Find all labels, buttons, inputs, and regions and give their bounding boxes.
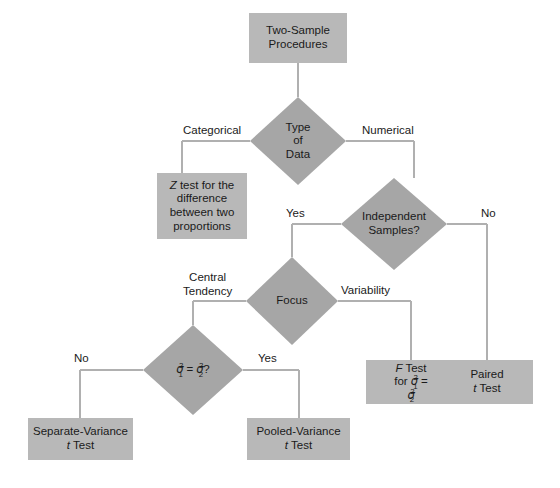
node-label: Two-Sample Procedures [266, 24, 330, 51]
node-separate-variance-t-test[interactable]: Separate-Variance t Test [28, 418, 133, 460]
edge-label-independent-yes: Yes [286, 207, 305, 221]
node-label: Focus [246, 257, 338, 345]
node-label: Separate-Variance t Test [33, 425, 128, 452]
node-z-test[interactable]: Z test for the difference between two pr… [157, 173, 247, 239]
node-type-of-data[interactable]: Type of Data [250, 97, 346, 185]
edge-label-sigma-no: No [74, 352, 89, 366]
node-independent-samples[interactable]: Independent Samples? [341, 178, 447, 270]
node-focus[interactable]: Focus [246, 257, 338, 345]
flowchart-canvas: Two-Sample Procedures Type of Data Categ… [0, 0, 560, 488]
node-label: F Test for σ12 = σ22 [389, 362, 433, 403]
node-label: Pooled-Variance t Test [256, 425, 340, 452]
edge-label-independent-no: No [481, 207, 496, 221]
connector-lines [0, 0, 560, 488]
edge-label-sigma-yes: Yes [258, 352, 277, 366]
node-label: Paired t Test [470, 368, 503, 395]
node-pooled-variance-t-test[interactable]: Pooled-Variance t Test [247, 418, 350, 460]
node-two-sample-procedures[interactable]: Two-Sample Procedures [249, 13, 347, 63]
node-label: σ12 = σ22? [143, 325, 243, 415]
node-label: Type of Data [250, 97, 346, 185]
node-label: Independent Samples? [341, 178, 447, 270]
edge-label-central-tendency: Central Tendency [183, 271, 232, 298]
edge-label-variability: Variability [341, 284, 390, 298]
edge-label-numerical: Numerical [362, 124, 414, 138]
node-sigma-equality[interactable]: σ12 = σ22? [143, 325, 243, 415]
node-label: Z test for the difference between two pr… [170, 179, 235, 233]
edge-label-categorical: Categorical [183, 124, 241, 138]
node-paired-t-test[interactable]: Paired t Test [441, 360, 533, 404]
